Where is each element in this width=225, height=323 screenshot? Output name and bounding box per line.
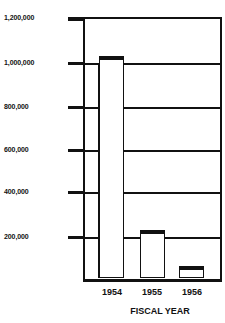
x-tick-label-1955: 1955 xyxy=(137,287,167,297)
y-tick-label-800000: 800,000 xyxy=(4,103,56,110)
y-tick-600000 xyxy=(68,149,84,152)
y-tick-label-1000000: 1,000,000 xyxy=(4,59,56,66)
bar-1954 xyxy=(99,56,124,278)
y-tick-label-400000: 400,000 xyxy=(4,188,56,195)
y-tick-1000000 xyxy=(68,62,84,65)
y-tick-400000 xyxy=(68,191,84,194)
y-tick-label-1200000: 1,200,000 xyxy=(4,14,56,21)
y-tick-800000 xyxy=(68,106,84,109)
x-tick-label-1954: 1954 xyxy=(97,287,127,297)
y-tick-label-200000: 200,000 xyxy=(4,233,56,240)
bar-1955 xyxy=(140,230,165,278)
x-tick-label-1956: 1956 xyxy=(177,287,207,297)
y-tick-1200000 xyxy=(68,17,84,21)
bar-1956 xyxy=(179,266,204,278)
x-axis-title: FISCAL YEAR xyxy=(110,306,210,316)
y-tick-label-600000: 600,000 xyxy=(4,146,56,153)
y-tick-200000 xyxy=(68,236,84,239)
